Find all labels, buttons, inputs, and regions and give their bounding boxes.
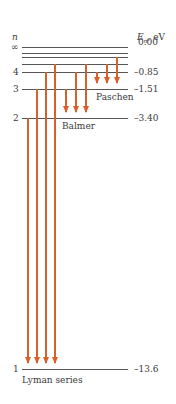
energy-level-line xyxy=(22,64,128,65)
transition-arrow xyxy=(45,72,47,363)
transition-arrow xyxy=(27,118,29,363)
transition-arrow xyxy=(75,72,77,112)
paschen-label: Paschen xyxy=(96,92,134,102)
transition-arrow xyxy=(85,64,87,112)
transition-arrow xyxy=(96,72,98,83)
hydrogen-energy-level-diagram: n En, eV ∞0.004–0.853–1.512–3.401–13.6 P… xyxy=(0,0,176,404)
level-energy-label: –0.85 xyxy=(134,67,159,77)
level-n-label: 2 xyxy=(13,113,19,123)
transition-arrow xyxy=(116,57,118,83)
balmer-label: Balmer xyxy=(62,121,95,131)
energy-level-line xyxy=(22,57,128,58)
lyman-series-label: Lyman series xyxy=(22,375,83,385)
level-energy-label: –1.51 xyxy=(134,84,159,94)
level-energy-label: –3.40 xyxy=(134,113,159,123)
level-n-label: 3 xyxy=(13,84,19,94)
energy-level-line xyxy=(22,53,128,54)
n-axis-label: n xyxy=(12,32,18,42)
transition-arrow xyxy=(65,89,67,112)
level-n-label: ∞ xyxy=(11,42,19,52)
level-energy-label: –13.6 xyxy=(134,364,159,374)
level-energy-label: 0.00 xyxy=(138,37,158,47)
energy-level-line xyxy=(22,369,128,370)
transition-arrow xyxy=(106,64,108,83)
transition-arrow xyxy=(54,64,56,363)
transition-arrow xyxy=(36,89,38,363)
level-n-label: 4 xyxy=(13,67,19,77)
level-n-label: 1 xyxy=(13,364,19,374)
energy-level-line xyxy=(22,47,128,48)
